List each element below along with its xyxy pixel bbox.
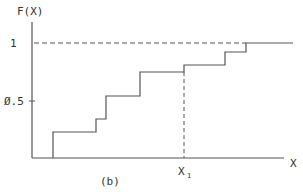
y-axis-label: F(X) [17, 5, 44, 18]
figure-caption: (b) [100, 175, 120, 188]
cdf-step-chart: F(X) 1 Ø.5 X X 1 (b) [0, 0, 303, 196]
y-tick-label-one: 1 [10, 37, 17, 50]
x1-label: X [178, 165, 185, 178]
y-tick-label-half: Ø.5 [4, 95, 24, 108]
x1-subscript: 1 [187, 172, 191, 180]
cdf-step-line [53, 43, 293, 158]
x-axis-label: X [290, 157, 297, 170]
